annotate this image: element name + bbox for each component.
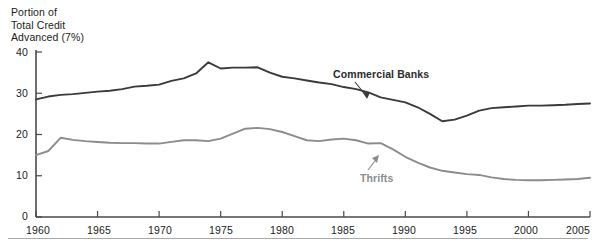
line-chart-figure: Portion of Total Credit Advanced (7%) 40…	[0, 0, 596, 246]
axes	[36, 50, 590, 217]
y-tick-label-40: 40	[8, 46, 28, 58]
x-tick-label-2005: 2005	[566, 224, 590, 236]
x-tick-label-1970: 1970	[148, 224, 172, 236]
series-label-thrifts: Thrifts	[360, 172, 393, 184]
x-tick-marks	[36, 211, 590, 217]
arrow-head-thrifts	[372, 155, 379, 163]
x-tick-label-1960: 1960	[26, 224, 50, 236]
x-tick-label-1980: 1980	[270, 224, 294, 236]
x-tick-label-1985: 1985	[331, 224, 355, 236]
x-tick-label-1995: 1995	[453, 224, 477, 236]
y-axis-caption: Portion of Total Credit Advanced (7%)	[11, 6, 84, 44]
y-tick-label-30: 30	[8, 87, 28, 99]
plot-area	[0, 0, 596, 246]
series-lines	[36, 62, 590, 180]
y-tick-label-10: 10	[8, 169, 28, 181]
footer-divider	[8, 238, 588, 239]
x-tick-label-1975: 1975	[209, 224, 233, 236]
x-tick-label-1990: 1990	[392, 224, 416, 236]
x-tick-label-2000: 2000	[514, 224, 538, 236]
y-tick-label-0: 0	[8, 210, 28, 222]
y-tick-marks	[36, 52, 42, 217]
series-line-commercial-banks	[36, 62, 590, 121]
y-tick-label-20: 20	[8, 128, 28, 140]
series-label-commercial-banks: Commercial Banks	[333, 68, 429, 80]
series-line-thrifts	[36, 128, 590, 180]
arrow-head-commercial-banks	[363, 92, 371, 99]
x-tick-label-1965: 1965	[87, 224, 111, 236]
